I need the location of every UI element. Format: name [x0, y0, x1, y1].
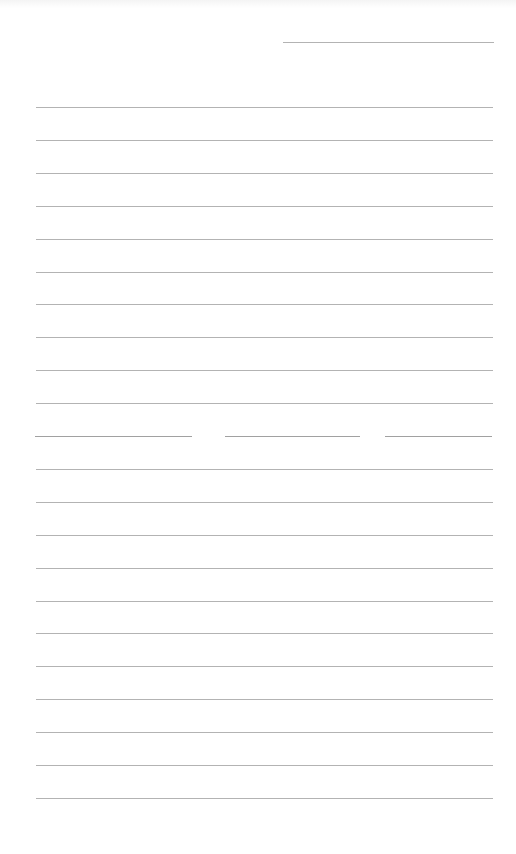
ruled-line — [36, 337, 493, 338]
ruled-line — [36, 732, 493, 733]
ruled-line — [36, 765, 493, 766]
ruled-line — [36, 568, 493, 569]
ruled-line — [36, 601, 493, 602]
ruled-line — [36, 798, 493, 799]
top-edge-shadow — [0, 0, 516, 8]
broken-rule-segment — [385, 436, 492, 437]
ruled-line — [36, 469, 493, 470]
ruled-line — [36, 666, 493, 667]
header-rule — [283, 42, 494, 43]
ruled-line — [36, 535, 493, 536]
broken-rule-segment — [35, 436, 192, 437]
ruled-line — [36, 370, 493, 371]
ruled-line — [36, 206, 493, 207]
ruled-line — [36, 699, 493, 700]
ruled-line — [36, 140, 493, 141]
ruled-line — [36, 173, 493, 174]
broken-rule-segment — [225, 436, 360, 437]
ruled-line — [36, 633, 493, 634]
ruled-line — [36, 272, 493, 273]
ruled-line — [36, 107, 493, 108]
ruled-line — [36, 403, 493, 404]
ruled-line — [36, 239, 493, 240]
ruled-line — [36, 304, 493, 305]
ruled-line — [36, 502, 493, 503]
